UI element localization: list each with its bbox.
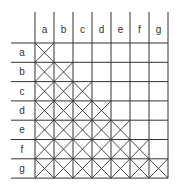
row-label-a: a xyxy=(19,47,25,58)
row-label-c: c xyxy=(20,86,25,97)
row-label-f: f xyxy=(21,144,24,155)
row-label-g: g xyxy=(19,163,25,174)
row-label-e: e xyxy=(19,124,25,135)
column-label-c: c xyxy=(80,24,85,35)
column-label-d: d xyxy=(99,24,105,35)
pair-matrix-diagram: abcdefgabcdefg xyxy=(0,0,177,189)
column-label-f: f xyxy=(138,24,141,35)
column-label-e: e xyxy=(118,24,124,35)
column-label-b: b xyxy=(61,24,67,35)
column-label-a: a xyxy=(42,24,48,35)
row-label-b: b xyxy=(19,66,25,77)
column-label-g: g xyxy=(156,24,162,35)
row-label-d: d xyxy=(19,105,25,116)
